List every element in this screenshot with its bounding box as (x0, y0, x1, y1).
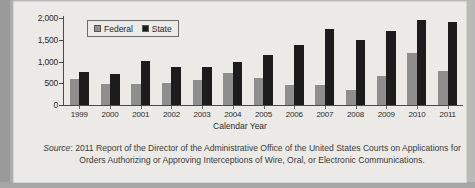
x-tick-label-2004: 2004 (219, 110, 247, 119)
x-tick-mark-2005 (264, 106, 265, 109)
legend-entry-state: State (142, 24, 172, 34)
x-tick-mark-2007 (325, 106, 326, 109)
bar-group (315, 18, 334, 105)
caption-line-1: : 2011 Report of the Director of the Adm… (70, 143, 460, 153)
bar-state-2000 (110, 74, 120, 105)
x-tick-mark-2010 (417, 106, 418, 109)
x-tick-mark-2009 (386, 106, 387, 109)
x-tick-label-2001: 2001 (127, 110, 155, 119)
bar-group (346, 18, 365, 105)
bar-group (254, 18, 273, 105)
y-tick-label-1500: 1,500 (24, 36, 58, 44)
y-tick-mark-2000 (59, 18, 63, 19)
y-tick-label-2000: 2,000 (24, 14, 58, 22)
legend-swatch-federal-icon (94, 25, 101, 32)
y-tick-mark-500 (59, 83, 63, 84)
y-axis-labels: 05001,0001,5002,000 (24, 2, 58, 124)
bar-state-2010 (417, 20, 427, 105)
x-tick-mark-2001 (141, 106, 142, 109)
y-tick-mark-1000 (59, 62, 63, 63)
x-tick-label-2007: 2007 (311, 110, 339, 119)
x-tick-mark-2000 (110, 106, 111, 109)
bar-federal-2008 (346, 90, 356, 105)
bar-federal-2006 (285, 85, 295, 105)
bar-group (407, 18, 426, 105)
page-bottom-gutter (0, 182, 475, 188)
bar-state-2007 (325, 29, 335, 105)
y-tick-mark-1500 (59, 40, 63, 41)
bar-state-2004 (233, 62, 243, 105)
source-caption: Source: 2011 Report of the Director of t… (28, 142, 475, 166)
x-tick-mark-2006 (294, 106, 295, 109)
legend-label-state: State (152, 24, 172, 34)
bar-group (193, 18, 212, 105)
x-tick-mark-2002 (171, 106, 172, 109)
bar-group (438, 18, 457, 105)
bar-group (285, 18, 304, 105)
bar-chart: 05001,0001,5002,000 FederalState Calenda… (14, 2, 466, 124)
bar-federal-2001 (131, 84, 141, 105)
x-tick-mark-1999 (79, 106, 80, 109)
chart-panel: 05001,0001,5002,000 FederalState Calenda… (14, 2, 466, 182)
x-tick-label-2011: 2011 (434, 110, 462, 119)
bar-state-2001 (141, 61, 151, 105)
bar-federal-2005 (254, 78, 264, 105)
legend-label-federal: Federal (104, 24, 133, 34)
x-tick-mark-2011 (448, 106, 449, 109)
bar-state-2005 (263, 55, 273, 105)
figure-container: 05001,0001,5002,000 FederalState Calenda… (0, 0, 475, 188)
bar-federal-2002 (162, 83, 172, 105)
x-tick-label-2006: 2006 (280, 110, 308, 119)
x-tick-label-2002: 2002 (157, 110, 185, 119)
bar-state-2008 (356, 40, 366, 105)
caption-source-label: Source (43, 143, 70, 153)
bar-group (223, 18, 242, 105)
bar-federal-2011 (438, 71, 448, 105)
x-tick-label-2005: 2005 (250, 110, 278, 119)
x-axis-title: Calendar Year (14, 121, 466, 131)
bar-federal-2000 (101, 84, 111, 105)
x-tick-mark-2003 (202, 106, 203, 109)
caption-line-2: Orders Authorizing or Approving Intercep… (79, 155, 424, 165)
x-tick-label-2000: 2000 (96, 110, 124, 119)
y-tick-label-500: 500 (24, 79, 58, 87)
bar-federal-2003 (193, 80, 203, 105)
page-left-gutter (0, 0, 10, 188)
bar-federal-2004 (223, 73, 233, 105)
bar-group (377, 18, 396, 105)
x-tick-label-2009: 2009 (372, 110, 400, 119)
x-tick-label-1999: 1999 (65, 110, 93, 119)
y-tick-mark-0 (59, 105, 63, 106)
bar-state-2002 (171, 67, 181, 105)
y-tick-label-0: 0 (24, 101, 58, 109)
bar-group (70, 18, 89, 105)
bar-state-2011 (448, 22, 458, 105)
bar-state-2009 (386, 31, 396, 105)
legend-entry-federal: Federal (94, 24, 133, 34)
bar-federal-2010 (407, 53, 417, 105)
bar-state-1999 (79, 72, 89, 105)
bar-federal-1999 (70, 79, 80, 105)
x-tick-label-2010: 2010 (403, 110, 431, 119)
bar-federal-2009 (377, 76, 387, 105)
x-tick-label-2003: 2003 (188, 110, 216, 119)
bar-federal-2007 (315, 85, 325, 105)
x-tick-mark-2004 (233, 106, 234, 109)
y-tick-label-1000: 1,000 (24, 58, 58, 66)
bar-state-2003 (202, 67, 212, 105)
x-tick-label-2008: 2008 (342, 110, 370, 119)
x-tick-mark-2008 (356, 106, 357, 109)
chart-legend: FederalState (87, 20, 179, 37)
bar-state-2006 (294, 45, 304, 105)
legend-swatch-state-icon (142, 25, 149, 32)
